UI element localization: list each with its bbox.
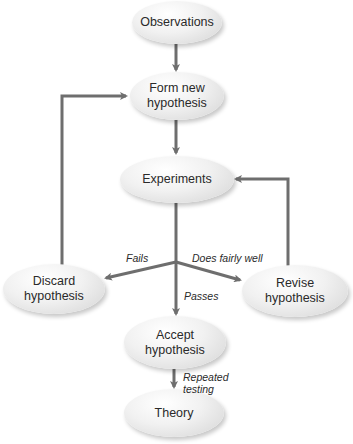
node-form-new-hypothesis: Form new hypothesis — [130, 72, 224, 120]
edge-label-repeated-line2: testing — [183, 383, 214, 395]
edge-label-passes: Passes — [184, 290, 218, 302]
node-form-new-line1: Form new — [149, 81, 205, 95]
node-experiments-label: Experiments — [142, 172, 211, 187]
arrow-does-fairly-well — [176, 262, 240, 280]
edge-label-repeated-testing: Repeated testing — [183, 371, 229, 395]
node-accept-label: Accept hypothesis — [145, 328, 205, 358]
node-accept-line1: Accept — [156, 328, 194, 342]
node-discard-line2: hypothesis — [24, 289, 84, 303]
node-theory-label: Theory — [155, 406, 194, 421]
edge-label-does-fairly-well: Does fairly well — [192, 252, 263, 264]
node-form-new-label: Form new hypothesis — [147, 81, 207, 111]
edges-layer — [0, 0, 353, 444]
node-observations: Observations — [132, 1, 222, 44]
node-discard-line1: Discard — [33, 274, 75, 288]
edge-label-repeated-line1: Repeated — [183, 371, 229, 383]
node-revise-line1: Revise — [276, 276, 314, 290]
node-accept-hypothesis: Accept hypothesis — [124, 316, 226, 369]
arrow-discard-to-form — [62, 96, 126, 266]
node-observations-label: Observations — [140, 15, 214, 30]
arrow-fails — [106, 262, 176, 278]
node-discard-hypothesis: Discard hypothesis — [3, 264, 105, 314]
node-experiments: Experiments — [120, 156, 234, 203]
node-accept-line2: hypothesis — [145, 343, 205, 357]
node-revise-label: Revise hypothesis — [265, 276, 325, 306]
node-theory: Theory — [124, 389, 224, 437]
node-revise-hypothesis: Revise hypothesis — [242, 265, 348, 317]
node-discard-label: Discard hypothesis — [24, 274, 84, 304]
node-revise-line2: hypothesis — [265, 291, 325, 305]
node-form-new-line2: hypothesis — [147, 96, 207, 110]
edge-label-fails: Fails — [126, 252, 148, 264]
